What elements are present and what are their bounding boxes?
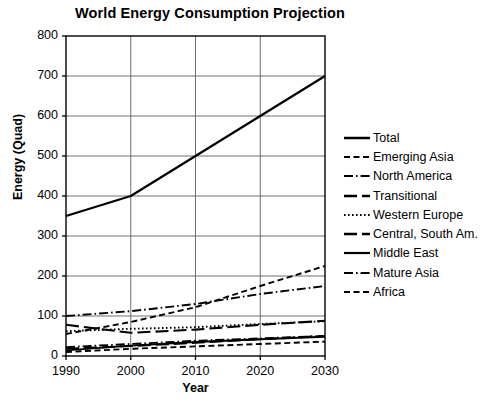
- legend-line-swatch: [344, 209, 370, 221]
- legend-line-swatch: [344, 247, 370, 259]
- legend-item[interactable]: Central, South Am.: [344, 224, 489, 243]
- chart-legend: TotalEmerging AsiaNorth AmericaTransitio…: [344, 128, 489, 302]
- legend-item[interactable]: Middle East: [344, 244, 489, 263]
- chart-container: World Energy Consumption Projection Ener…: [0, 0, 489, 407]
- legend-label: North America: [373, 169, 452, 183]
- legend-line-swatch: [344, 267, 370, 279]
- legend-label: Transitional: [373, 189, 437, 203]
- legend-line-swatch: [344, 170, 370, 182]
- legend-item[interactable]: Mature Asia: [344, 263, 489, 282]
- legend-label: Total: [373, 131, 399, 145]
- x-axis-label: Year: [66, 381, 325, 395]
- legend-item[interactable]: Africa: [344, 282, 489, 301]
- legend-line-swatch: [344, 132, 370, 144]
- legend-label: Mature Asia: [373, 266, 439, 280]
- legend-line-swatch: [344, 228, 370, 240]
- legend-label: Emerging Asia: [373, 150, 454, 164]
- legend-item[interactable]: Western Europe: [344, 205, 489, 224]
- legend-label: Central, South Am.: [373, 227, 478, 241]
- legend-item[interactable]: Transitional: [344, 186, 489, 205]
- legend-item[interactable]: North America: [344, 167, 489, 186]
- legend-line-swatch: [344, 190, 370, 202]
- grid-lines: [66, 36, 325, 356]
- legend-item[interactable]: Total: [344, 128, 489, 147]
- legend-label: Africa: [373, 285, 405, 299]
- legend-label: Middle East: [373, 246, 438, 260]
- legend-line-swatch: [344, 151, 370, 163]
- legend-item[interactable]: Emerging Asia: [344, 147, 489, 166]
- axis-ticks: [62, 36, 325, 360]
- legend-label: Western Europe: [373, 208, 463, 222]
- legend-line-swatch: [344, 286, 370, 298]
